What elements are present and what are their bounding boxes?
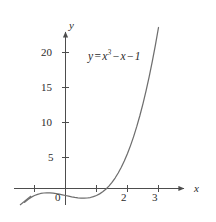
equation-constant: 1 xyxy=(135,50,141,62)
y-tick-label-15: 15 xyxy=(41,82,52,93)
x-tick-label-3: 3 xyxy=(152,192,158,203)
equation-annotation: y=x3−x−1 xyxy=(88,51,141,63)
plot-canvas xyxy=(0,0,216,222)
figure-container: 20 15 10 5 0 2 3 y x y=x3−x−1 xyxy=(0,0,216,222)
x-tick-label-2: 2 xyxy=(121,192,127,203)
y-axis-label: y xyxy=(69,20,74,31)
curve-tail-mark xyxy=(20,196,31,205)
y-tick-label-5: 5 xyxy=(48,152,54,163)
equation-minus-second: − xyxy=(126,50,135,62)
origin-label: 0 xyxy=(55,192,61,203)
y-tick-label-10: 10 xyxy=(41,117,52,128)
y-tick-label-20: 20 xyxy=(41,47,52,58)
x-axis-label: x xyxy=(194,183,199,194)
equation-equals: = xyxy=(93,50,102,62)
